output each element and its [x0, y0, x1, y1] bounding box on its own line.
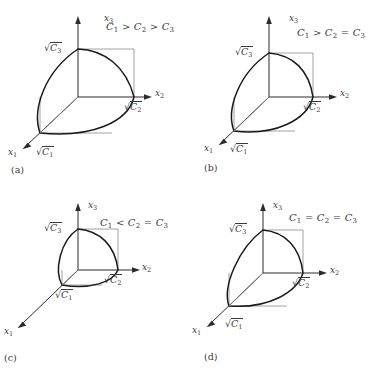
panel-c-drawing — [0, 185, 186, 371]
panel-d-tag: (d) — [204, 352, 218, 362]
panel-b-x1-axis-label: x1 — [204, 144, 213, 153]
panel-d-x1-axis-label: x1 — [192, 326, 201, 335]
panel-b-x1-arrowhead — [219, 139, 228, 146]
panel-b-condition-label: C1 > C2 = C3 — [297, 28, 365, 38]
panel-c-intercept-c2: √C2 — [104, 274, 122, 285]
panel-d-x2-arrowhead — [319, 270, 327, 276]
panel-c-x1-arrowhead — [18, 322, 27, 329]
panel-d-intercept-c1: √C1 — [225, 318, 243, 329]
panel-c-inner-edge — [62, 270, 78, 285]
panel-d-intercept-c2: √C2 — [292, 277, 310, 288]
panel-a-x3-arrowhead — [75, 16, 81, 24]
panel-d-x3-arrowhead — [260, 203, 266, 211]
panel-a-tag: (a) — [11, 165, 24, 175]
panel-d-intercept-c3: √C3 — [229, 223, 247, 234]
panel-b-intercept-c2: √C2 — [303, 101, 321, 112]
figure-root: x3 x2 x1 √C3 √C2 √C1 C1 > C2 > C3 (a) — [0, 0, 371, 371]
panel-c-x1-axis-label: x1 — [4, 327, 13, 336]
panel-d-inner-edge — [229, 273, 263, 306]
panel-d: x3 x2 x1 √C3 √C2 √C1 C1 = C2 = C3 (d) — [185, 185, 371, 371]
panel-d-condition-label: C1 = C2 = C3 — [289, 213, 357, 223]
panel-c-x3-arrowhead — [75, 203, 81, 211]
panel-b-inner-edge — [234, 97, 269, 131]
panel-c-intercept-c3: √C3 — [44, 222, 62, 233]
panel-a-intercept-c1: √C1 — [36, 146, 54, 157]
panel-a-x1-axis-label: x1 — [8, 148, 17, 157]
panel-b-x3-arrowhead — [266, 16, 272, 24]
panel-a-x1-arrowhead — [23, 143, 32, 150]
panel-a-x2-arrowhead — [144, 94, 152, 100]
panel-d-x3-axis-label: x3 — [273, 201, 282, 210]
panel-b-surface-outline — [232, 53, 313, 132]
panel-b-intercept-c1: √C1 — [230, 143, 248, 154]
panel-c: x3 x2 x1 √C3 √C2 √C1 C1 < C2 = C3 (c) — [0, 185, 186, 371]
panel-b-intercept-c3: √C3 — [235, 46, 253, 57]
panel-c-x3-axis-label: x3 — [88, 201, 97, 210]
panel-d-x1-arrowhead — [207, 321, 216, 328]
panel-b-x2-arrowhead — [329, 94, 337, 100]
panel-c-tag: (c) — [4, 353, 17, 363]
panel-b-tag: (b) — [204, 163, 218, 173]
panel-d-x2-axis-label: x2 — [330, 266, 339, 275]
panel-a: x3 x2 x1 √C3 √C2 √C1 C1 > C2 > C3 (a) — [0, 0, 186, 186]
panel-a-intercept-c2: √C2 — [124, 101, 142, 112]
panel-b-x3-axis-label: x3 — [289, 14, 298, 23]
panel-c-condition-label: C1 < C2 = C3 — [100, 218, 168, 228]
panel-c-x2-axis-label: x2 — [142, 263, 151, 272]
panel-a-intercept-c3: √C3 — [44, 42, 62, 53]
panel-b-x2-axis-label: x2 — [340, 89, 349, 98]
panel-a-condition-label: C1 > C2 > C3 — [106, 22, 174, 32]
panel-d-surface-outline — [227, 230, 303, 306]
panel-a-inner-edge — [40, 97, 78, 133]
panel-c-x2-arrowhead — [132, 267, 140, 273]
panel-c-intercept-c1: √C1 — [55, 289, 73, 300]
panel-b: x3 x2 x1 √C3 √C2 √C1 C1 > C2 = C3 (b) — [185, 0, 371, 186]
panel-a-x2-axis-label: x2 — [155, 89, 164, 98]
